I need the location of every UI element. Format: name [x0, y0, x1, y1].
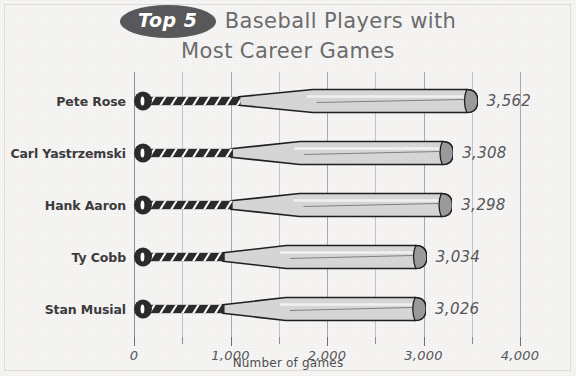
top-5-badge: Top 5 [120, 5, 216, 38]
chart-container: Top 5 Baseball Players with Most Career … [0, 0, 576, 376]
bat-end-cap [440, 142, 453, 165]
bar-row: Stan Musial3,026 [134, 283, 520, 335]
bar-value-label: 3,562 [487, 92, 531, 110]
x-tick-500 [182, 337, 183, 344]
bat-barrel [223, 246, 427, 269]
bat-barrel [231, 142, 453, 165]
player-name-label: Ty Cobb [71, 250, 126, 265]
bar-value-label: 3,034 [436, 248, 480, 266]
bat-barrel [223, 298, 426, 321]
bat-end-cap [464, 90, 477, 113]
bar-row: Carl Yastrzemski3,308 [134, 127, 520, 179]
chart-title-block: Top 5 Baseball Players with Most Career … [0, 4, 576, 63]
title-first-line: Top 5 Baseball Players with [0, 4, 576, 38]
bat-bar [134, 188, 452, 222]
bat-end-cap [414, 246, 427, 269]
bat-end-cap [413, 298, 426, 321]
bat-bar [134, 240, 427, 274]
bar-value-label: 3,308 [462, 144, 506, 162]
x-tick-2000 [327, 337, 328, 346]
player-name-label: Hank Aaron [45, 198, 126, 213]
bat-knob-highlight [141, 148, 145, 157]
x-axis-title: Number of games [0, 356, 576, 370]
x-tick-3000 [424, 337, 425, 346]
x-tick-1500 [279, 337, 280, 344]
bar-row: Ty Cobb3,034 [134, 231, 520, 283]
bat-barrel [239, 90, 478, 113]
title-text-line-2: Most Career Games [0, 39, 576, 63]
plot-area: Pete Rose3,562Carl Yastrzemski3,308Hank … [134, 72, 520, 337]
bar-row: Hank Aaron3,298 [134, 179, 520, 231]
player-name-label: Stan Musial [45, 302, 126, 317]
bat-knob-highlight [141, 200, 145, 209]
bat-knob-highlight [141, 96, 145, 105]
bar-value-label: 3,026 [435, 300, 479, 318]
x-tick-1000 [231, 337, 232, 346]
bat-bar [134, 84, 478, 118]
bar-value-label: 3,298 [461, 196, 505, 214]
x-tick-2500 [375, 337, 376, 344]
bat-knob-highlight [141, 304, 145, 313]
player-name-label: Carl Yastrzemski [10, 146, 126, 161]
x-tick-4000 [520, 337, 521, 346]
title-text-line-1: Baseball Players with [225, 9, 457, 33]
bat-bar [134, 292, 426, 326]
gridline-4000 [520, 72, 521, 337]
bat-bar [134, 136, 453, 170]
bar-row: Pete Rose3,562 [134, 75, 520, 127]
bat-end-cap [439, 194, 452, 217]
x-tick-0 [134, 337, 135, 346]
bat-barrel [231, 194, 453, 217]
bat-knob-highlight [141, 252, 145, 261]
x-tick-3500 [472, 337, 473, 344]
player-name-label: Pete Rose [56, 94, 126, 109]
